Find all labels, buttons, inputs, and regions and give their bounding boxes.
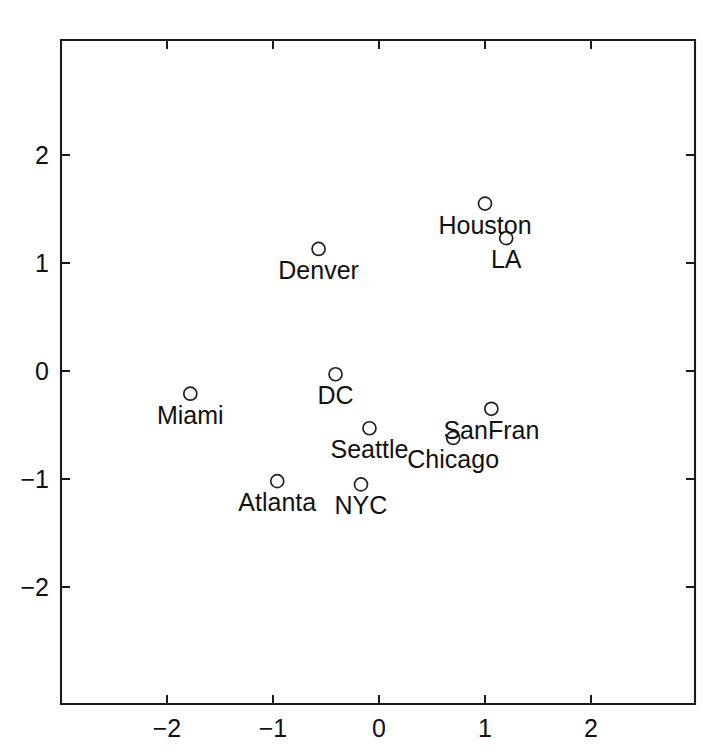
data-point-marker xyxy=(479,197,492,210)
point-label-seattle: Seattle xyxy=(331,437,409,462)
point-label-atlanta: Atlanta xyxy=(238,490,316,515)
y-tick-label: −1 xyxy=(20,467,49,492)
data-point-marker xyxy=(363,422,376,435)
axis-ticks xyxy=(61,40,695,704)
data-point-marker xyxy=(184,387,197,400)
point-label-nyc: NYC xyxy=(335,493,388,518)
x-tick-label: 1 xyxy=(478,716,492,741)
y-tick-label: 2 xyxy=(35,143,49,168)
point-label-denver: Denver xyxy=(278,258,359,283)
point-label-la: LA xyxy=(491,247,522,272)
scatter-plot-figure: −2−1012 −2−1012 HoustonLADenverDCMiamiSa… xyxy=(0,0,727,752)
point-label-sanfran: SanFran xyxy=(443,418,539,443)
data-point-marker xyxy=(329,368,342,381)
data-point-marker xyxy=(354,478,367,491)
data-point-marker xyxy=(312,242,325,255)
data-point-marker xyxy=(485,402,498,415)
y-tick-label: −2 xyxy=(20,575,49,600)
point-label-dc: DC xyxy=(317,383,353,408)
plot-canvas xyxy=(0,0,727,752)
y-tick-label: 1 xyxy=(35,251,49,276)
data-point-marker xyxy=(271,475,284,488)
axes-frame xyxy=(61,40,695,704)
y-tick-label: 0 xyxy=(35,359,49,384)
x-tick-label: −1 xyxy=(259,716,288,741)
point-label-miami: Miami xyxy=(157,403,224,428)
x-tick-label: −2 xyxy=(153,716,182,741)
point-label-chicago: Chicago xyxy=(407,447,499,472)
x-tick-label: 0 xyxy=(372,716,386,741)
point-label-houston: Houston xyxy=(438,213,531,238)
x-tick-label: 2 xyxy=(584,716,598,741)
